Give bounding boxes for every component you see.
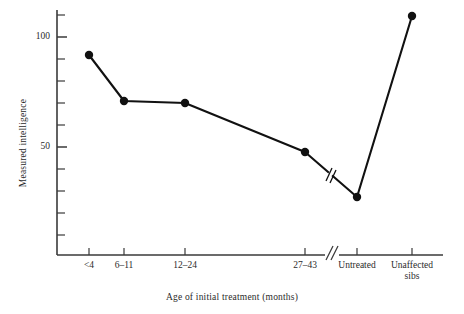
x-tick-label-unaffected: Unaffected <box>377 260 447 271</box>
x-tick-label-6-11: 6–11 <box>94 260 154 271</box>
y-axis-title: Measured intelligence <box>18 68 28 218</box>
series-line <box>89 16 412 197</box>
x-tick-label-12-24: 12–24 <box>155 260 215 271</box>
data-point-1[interactable] <box>120 97 128 105</box>
y-tick-label-100: 100 <box>8 31 50 41</box>
data-point-5[interactable] <box>408 12 416 20</box>
data-point-0[interactable] <box>85 51 93 59</box>
x-axis-title: Age of initial treatment (months) <box>0 292 464 302</box>
data-point-3[interactable] <box>301 148 309 156</box>
y-tick-label-50: 50 <box>8 141 50 151</box>
chart-figure: 100 50 <4 6–11 12–24 27–43 Untreated Una… <box>0 0 464 314</box>
x-axis-break-mark <box>325 246 339 260</box>
x-tick-label-unaffected-line2: sibs <box>377 271 447 282</box>
data-point-4[interactable] <box>353 193 361 201</box>
data-point-2[interactable] <box>181 99 189 107</box>
